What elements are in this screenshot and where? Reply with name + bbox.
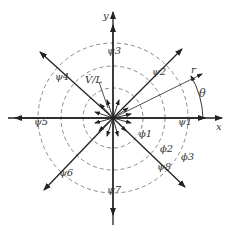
phi3-label: ϕ3 (181, 151, 194, 162)
streamline-psi6 (44, 118, 113, 190)
psi5-label: ψ5 (34, 116, 48, 127)
x-axis-label: x (216, 121, 222, 132)
psi8-label: ψ8 (157, 161, 171, 172)
psi3-label: ψ3 (107, 45, 121, 56)
phi2-label: ϕ2 (160, 143, 173, 154)
source-flow-diagram: x y r θ V̇/L ψ1 ψ2 ψ3 ψ4 ψ5 ψ6 ψ7 ψ8 ϕ1 … (0, 0, 228, 231)
r-label: r (191, 64, 197, 75)
streamline-psi4 (40, 52, 113, 118)
y-axis-label: y (102, 10, 109, 21)
source-strength-label: V̇/L (85, 74, 103, 85)
psi6-label: ψ6 (59, 167, 74, 178)
radius-line (113, 74, 202, 118)
psi1-label: ψ1 (178, 116, 192, 127)
psi7-label: ψ7 (107, 184, 122, 195)
psi2-label: ψ2 (152, 66, 166, 77)
psi4-label: ψ4 (55, 71, 69, 82)
theta-label: θ (199, 87, 206, 100)
phi1-label: ϕ1 (139, 128, 152, 139)
streamline-psi2 (113, 49, 182, 118)
